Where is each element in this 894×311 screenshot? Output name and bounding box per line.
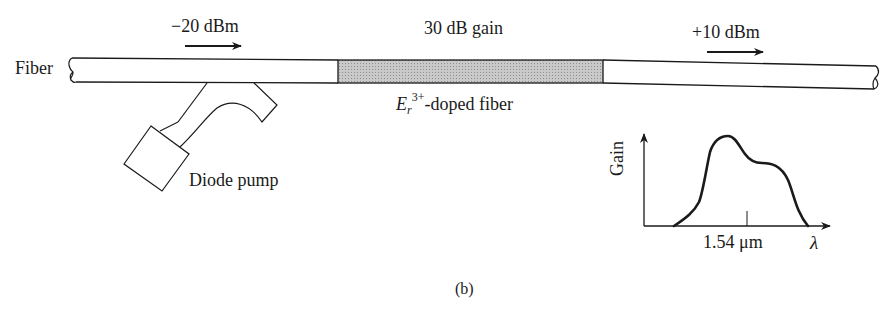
doped-fiber-subscript: r (407, 103, 412, 117)
edfa-diagram: Fiber −20 dBm 30 dB gain +10 dBm Er3+-do… (0, 0, 894, 311)
inset-tick-label: 1.54 μm (703, 232, 763, 253)
doped-fiber-symbol: E (396, 94, 407, 114)
doped-fiber-suffix: -doped fiber (424, 94, 512, 114)
diode-pump-label: Diode pump (189, 170, 279, 191)
fiber-output-section (603, 60, 876, 89)
fiber-break-left-icon (69, 58, 76, 82)
gain-spectrum-inset (644, 134, 830, 226)
erbium-doped-fiber-section (338, 60, 603, 83)
gain-label: 30 dB gain (424, 18, 503, 39)
diode-pump-box (124, 126, 189, 191)
doped-fiber-label: Er3+-doped fiber (396, 92, 513, 119)
inset-y-label: Gain (607, 141, 628, 176)
figure-caption: (b) (455, 280, 474, 298)
fiber-label: Fiber (15, 58, 53, 79)
inset-x-label: λ (810, 232, 818, 254)
fiber-input-section (72, 58, 338, 83)
input-power-label: −20 dBm (171, 16, 239, 37)
pump-coupler (160, 83, 277, 147)
doped-fiber-superscript: 3+ (412, 90, 425, 104)
fiber-break-right-icon (873, 66, 879, 89)
output-power-label: +10 dBm (692, 22, 760, 43)
gain-curve (674, 136, 808, 226)
